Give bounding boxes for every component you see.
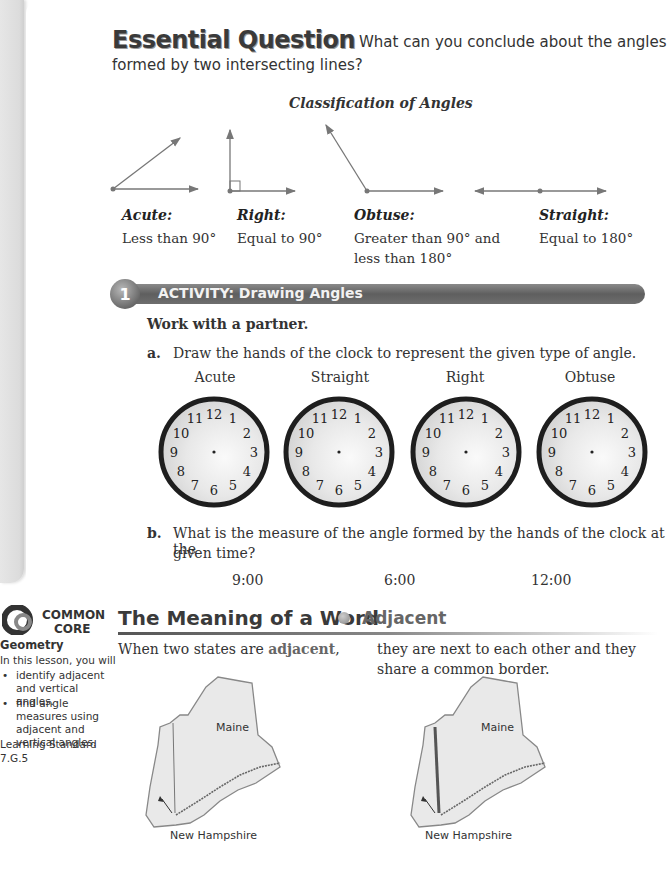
angle-desc-acute: Less than 90° xyxy=(122,229,216,248)
angle-diagrams xyxy=(100,110,660,200)
map-label-new-hampshire: New Hampshire xyxy=(170,829,257,842)
part-a-letter: a. xyxy=(147,345,161,361)
straight-angle-icon xyxy=(475,189,606,194)
map-label-maine: Maine xyxy=(481,721,514,734)
adjacent-highlight: adjacent xyxy=(268,641,335,657)
essential-question-text-2: formed by two intersecting lines? xyxy=(112,56,363,74)
clock-straight-icon xyxy=(286,399,392,505)
time-3: 12:00 xyxy=(531,572,571,588)
activity-instruction: Work with a partner. xyxy=(147,316,308,332)
clock-right-icon xyxy=(413,399,519,505)
angle-desc-obtuse-2: less than 180° xyxy=(354,249,452,268)
angle-desc-obtuse-1: Greater than 90° and xyxy=(354,229,500,248)
angle-desc-straight: Equal to 180° xyxy=(539,229,633,248)
angle-name-acute: Acute: xyxy=(122,207,172,223)
sidebar-subject: Geometry xyxy=(0,638,64,652)
bullet-icon: • xyxy=(2,669,8,682)
common-core-line2: CORE xyxy=(54,622,90,636)
map-maine-nh-1: Maine New Hampshire xyxy=(140,675,320,855)
adjacent-left-prefix: When two states are xyxy=(118,641,268,657)
side-tab xyxy=(0,0,24,583)
part-b-letter: b. xyxy=(147,525,162,541)
acute-angle-icon xyxy=(111,138,199,192)
classification-title: Classification of Angles xyxy=(289,95,473,111)
meaning-rule xyxy=(118,632,658,635)
adjacent-left-suffix: , xyxy=(335,641,339,657)
part-b-text-2: given time? xyxy=(173,545,255,561)
activity-number-badge: 1 xyxy=(110,279,140,309)
bullet-icon: • xyxy=(2,697,8,710)
clock-faces: 12 1 2 3 4 5 6 7 8 9 10 11 xyxy=(150,395,650,510)
part-a-text: Draw the hands of the clock to represent… xyxy=(173,345,636,361)
clock-label-right: Right xyxy=(410,369,520,385)
angle-name-straight: Straight: xyxy=(539,207,609,223)
time-1: 9:00 xyxy=(232,572,263,588)
time-2: 6:00 xyxy=(384,572,415,588)
right-angle-icon xyxy=(228,130,296,194)
adjacent-right-text-1: they are next to each other and they xyxy=(377,641,636,657)
essential-question-text-1: What can you conclude about the angles xyxy=(359,33,666,51)
adjacent-left-text: When two states are adjacent, xyxy=(118,641,340,657)
angle-name-right: Right: xyxy=(237,207,286,223)
essential-question-title: Essential Question xyxy=(112,26,355,54)
meaning-word: Adjacent xyxy=(362,608,446,628)
activity-title: ACTIVITY: Drawing Angles xyxy=(158,285,363,301)
sidebar-standard-label: Learning Standard xyxy=(0,738,97,751)
clock-label-acute: Acute xyxy=(160,369,270,385)
bullet-dot-icon xyxy=(338,612,350,624)
clock-acute-icon xyxy=(161,399,267,505)
obtuse-angle-icon xyxy=(326,125,443,194)
sidebar-standard-code: 7.G.5 xyxy=(0,752,28,765)
angle-name-obtuse: Obtuse: xyxy=(354,207,415,223)
common-core-line1: COMMON xyxy=(42,608,105,622)
clock-label-straight: Straight xyxy=(285,369,395,385)
map-maine-nh-2: Maine New Hampshire xyxy=(405,675,585,855)
angle-desc-right: Equal to 90° xyxy=(237,229,323,248)
clock-obtuse-icon xyxy=(539,399,645,505)
common-core-logo-icon xyxy=(2,605,36,635)
map-label-new-hampshire: New Hampshire xyxy=(425,829,512,842)
sidebar-intro: In this lesson, you will xyxy=(0,654,116,667)
map-label-maine: Maine xyxy=(216,721,249,734)
clock-label-obtuse: Obtuse xyxy=(535,369,645,385)
